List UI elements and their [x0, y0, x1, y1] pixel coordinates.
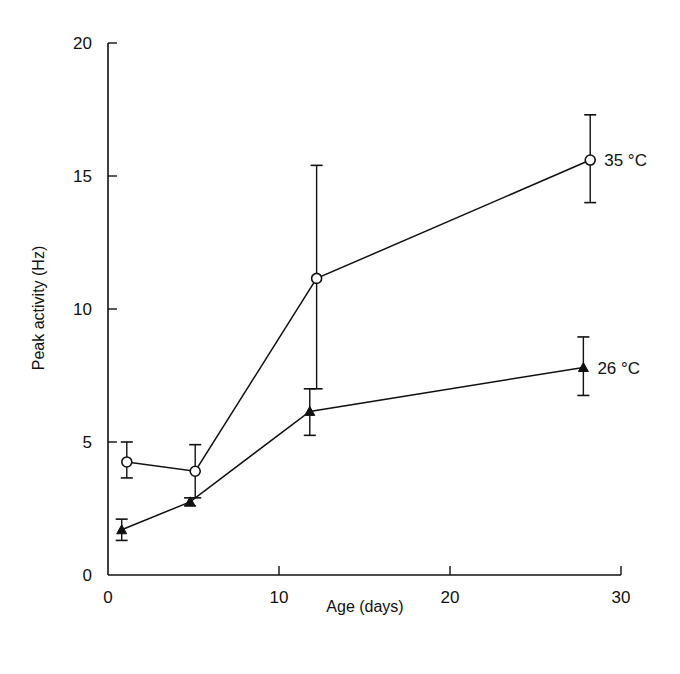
y-tick-label: 5 [83, 433, 92, 452]
x-tick-label: 30 [612, 588, 631, 607]
series-open-circle: 35 °C [121, 115, 647, 498]
open-circle-marker [122, 457, 132, 467]
series-label: 35 °C [604, 151, 647, 170]
series-layer: 35 °C26 °C [116, 115, 647, 541]
line-chart: 051015200102030 35 °C26 °C Age (days) Pe… [0, 0, 680, 674]
open-circle-marker [312, 273, 322, 283]
series-label: 26 °C [597, 359, 640, 378]
axes: 051015200102030 [73, 34, 630, 607]
filled-triangle-marker [117, 525, 127, 534]
x-tick-label: 10 [270, 588, 289, 607]
y-tick-label: 0 [83, 566, 92, 585]
open-circle-marker [190, 466, 200, 476]
x-tick-label: 0 [103, 588, 112, 607]
y-tick-label: 15 [73, 167, 92, 186]
filled-triangle-marker [578, 363, 588, 372]
series-filled-triangle: 26 °C [116, 337, 640, 540]
x-axis-label: Age (days) [326, 598, 403, 615]
x-tick-label: 20 [441, 588, 460, 607]
open-circle-marker [585, 155, 595, 165]
y-tick-label: 10 [73, 300, 92, 319]
y-tick-label: 20 [73, 34, 92, 53]
y-axis-label: Peak activity (Hz) [30, 246, 47, 370]
series-line [127, 160, 590, 471]
